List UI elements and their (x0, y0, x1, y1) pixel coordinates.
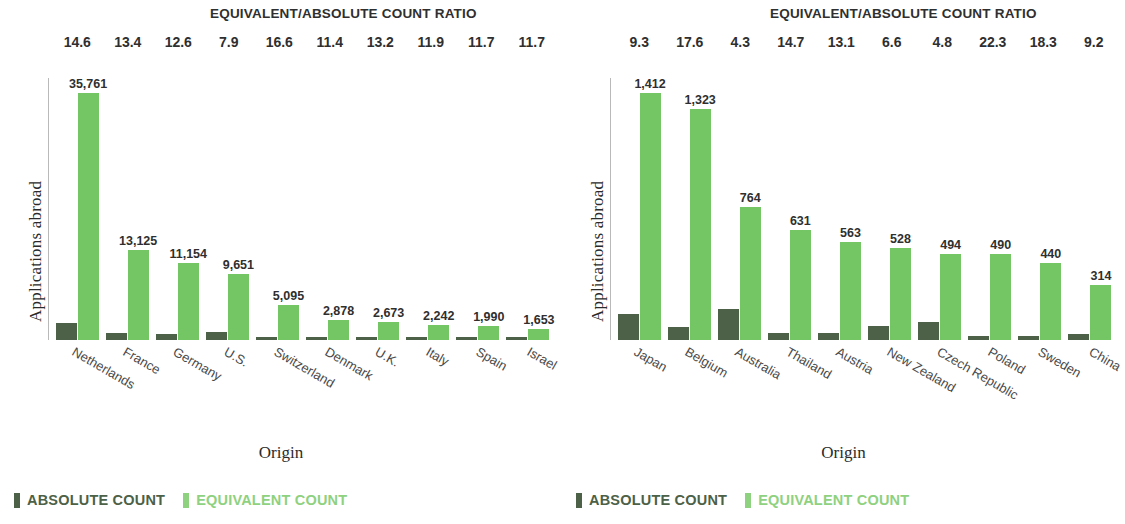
legend-item-absolute-left: ABSOLUTE COUNT (14, 492, 165, 508)
bar-absolute-count (718, 309, 739, 340)
x-tick-label: U.S. (221, 344, 250, 370)
legend-label-absolute: ABSOLUTE COUNT (27, 492, 165, 508)
bar-equivalent-count: 528 (890, 248, 911, 340)
bar-absolute-count (56, 323, 77, 340)
ratio-value: 11.4 (305, 34, 356, 50)
bar-group: 314 (1065, 78, 1115, 340)
bar-group: 11,154 (152, 78, 202, 340)
ratio-value: 14.6 (52, 34, 103, 50)
x-tick: Israel (507, 342, 558, 434)
bar-group: 1,323 (664, 78, 714, 340)
x-tick: Spain (456, 342, 507, 434)
bar-value-label: 5,095 (273, 289, 304, 303)
bar-equivalent-count: 563 (840, 242, 861, 340)
bar-absolute-count (618, 314, 639, 341)
x-tick-label: Israel (524, 344, 559, 373)
x-tick: Poland (968, 342, 1019, 434)
legend-right: ABSOLUTE COUNT EQUIVALENT COUNT (576, 492, 909, 508)
legend-left: ABSOLUTE COUNT EQUIVALENT COUNT (14, 492, 347, 508)
bar-group: 1,653 (503, 78, 553, 340)
bar-equivalent-count: 494 (940, 254, 961, 340)
ratio-value: 9.2 (1069, 34, 1120, 50)
bar-equivalent-count: 13,125 (128, 250, 149, 341)
x-tick: U.S. (204, 342, 255, 434)
ratio-value: 6.6 (867, 34, 918, 50)
x-tick: U.K. (355, 342, 406, 434)
bar-absolute-count (156, 334, 177, 340)
ratio-value: 17.6 (665, 34, 716, 50)
ratio-value: 13.1 (816, 34, 867, 50)
bar-value-label: 1,990 (473, 310, 504, 324)
bar-value-label: 631 (790, 214, 811, 228)
bar-equivalent-count: 764 (740, 207, 761, 340)
ratio-value: 18.3 (1018, 34, 1069, 50)
bar-group: 5,095 (252, 78, 302, 340)
y-axis-line-right (610, 78, 611, 340)
bar-equivalent-count: 1,323 (690, 109, 711, 340)
plot-area-left: 35,76113,12511,1549,6515,0952,8782,6732,… (48, 78, 553, 340)
bar-value-label: 2,242 (423, 309, 454, 323)
x-tick: Denmark (305, 342, 356, 434)
bar-group: 2,242 (403, 78, 453, 340)
legend-item-absolute-right: ABSOLUTE COUNT (576, 492, 727, 508)
bar-equivalent-count: 440 (1040, 263, 1061, 340)
x-tick-labels-left: NetherlandsFranceGermanyU.S.SwitzerlandD… (52, 342, 557, 434)
bar-absolute-count (306, 337, 327, 340)
bar-value-label: 1,323 (685, 93, 716, 107)
bar-value-label: 2,673 (373, 306, 404, 320)
bar-group: 631 (764, 78, 814, 340)
bar-absolute-count (1018, 336, 1039, 340)
bar-value-label: 1,653 (523, 313, 554, 327)
bar-absolute-count (106, 333, 127, 340)
ratio-value: 22.3 (968, 34, 1019, 50)
x-tick-label: U.K. (373, 344, 402, 370)
legend-swatch-absolute-icon (14, 493, 20, 508)
legend-item-equivalent-right: EQUIVALENT COUNT (745, 492, 909, 508)
bar-absolute-count (506, 337, 527, 340)
bar-value-label: 764 (740, 191, 761, 205)
bar-equivalent-count: 35,761 (78, 93, 99, 340)
x-tick: China (1069, 342, 1120, 434)
bar-absolute-count (668, 327, 689, 340)
legend-swatch-equivalent-icon (183, 493, 189, 508)
bar-group: 35,761 (52, 78, 102, 340)
bar-group: 494 (915, 78, 965, 340)
ratio-value: 4.8 (917, 34, 968, 50)
bar-value-label: 1,412 (634, 77, 665, 91)
bar-equivalent-count: 1,990 (478, 326, 499, 340)
x-tick: France (103, 342, 154, 434)
bar-value-label: 314 (1090, 269, 1111, 283)
x-tick-label: Italy (423, 344, 451, 369)
bar-absolute-count (768, 333, 789, 341)
bar-group: 440 (1015, 78, 1065, 340)
bar-equivalent-count: 314 (1090, 285, 1111, 340)
ratio-value: 11.7 (456, 34, 507, 50)
y-axis-line-left (48, 78, 49, 340)
ratio-values-row-right: 9.317.64.314.713.16.64.822.318.39.2 (614, 34, 1119, 50)
bar-equivalent-count: 5,095 (278, 305, 299, 340)
ratio-value: 14.7 (766, 34, 817, 50)
y-axis-title-right: Applications abroad (588, 181, 608, 322)
legend-swatch-equivalent-icon (745, 493, 751, 508)
bar-group: 2,673 (353, 78, 403, 340)
bar-group: 2,878 (302, 78, 352, 340)
bar-value-label: 528 (890, 232, 911, 246)
bar-value-label: 440 (1040, 247, 1061, 261)
bar-equivalent-count: 2,242 (428, 325, 449, 341)
bar-equivalent-count: 2,878 (328, 320, 349, 340)
bar-equivalent-count: 1,412 (640, 93, 661, 340)
x-tick: Belgium (665, 342, 716, 434)
chart-panel-right: EQUIVALENT/ABSOLUTE COUNT RATIO 9.317.64… (562, 0, 1125, 524)
bar-value-label: 2,878 (323, 304, 354, 318)
x-tick: Thailand (766, 342, 817, 434)
ratio-title-right: EQUIVALENT/ABSOLUTE COUNT RATIO (770, 6, 1037, 21)
legend-label-absolute: ABSOLUTE COUNT (589, 492, 727, 508)
bar-group: 1,412 (614, 78, 664, 340)
ratio-value: 11.7 (507, 34, 558, 50)
y-axis-title-left: Applications abroad (26, 181, 46, 322)
x-tick-label: Spain (474, 344, 510, 374)
x-tick: Australia (715, 342, 766, 434)
bar-group: 764 (714, 78, 764, 340)
x-tick: Czech Republic (917, 342, 968, 434)
x-tick: New Zealand (867, 342, 918, 434)
